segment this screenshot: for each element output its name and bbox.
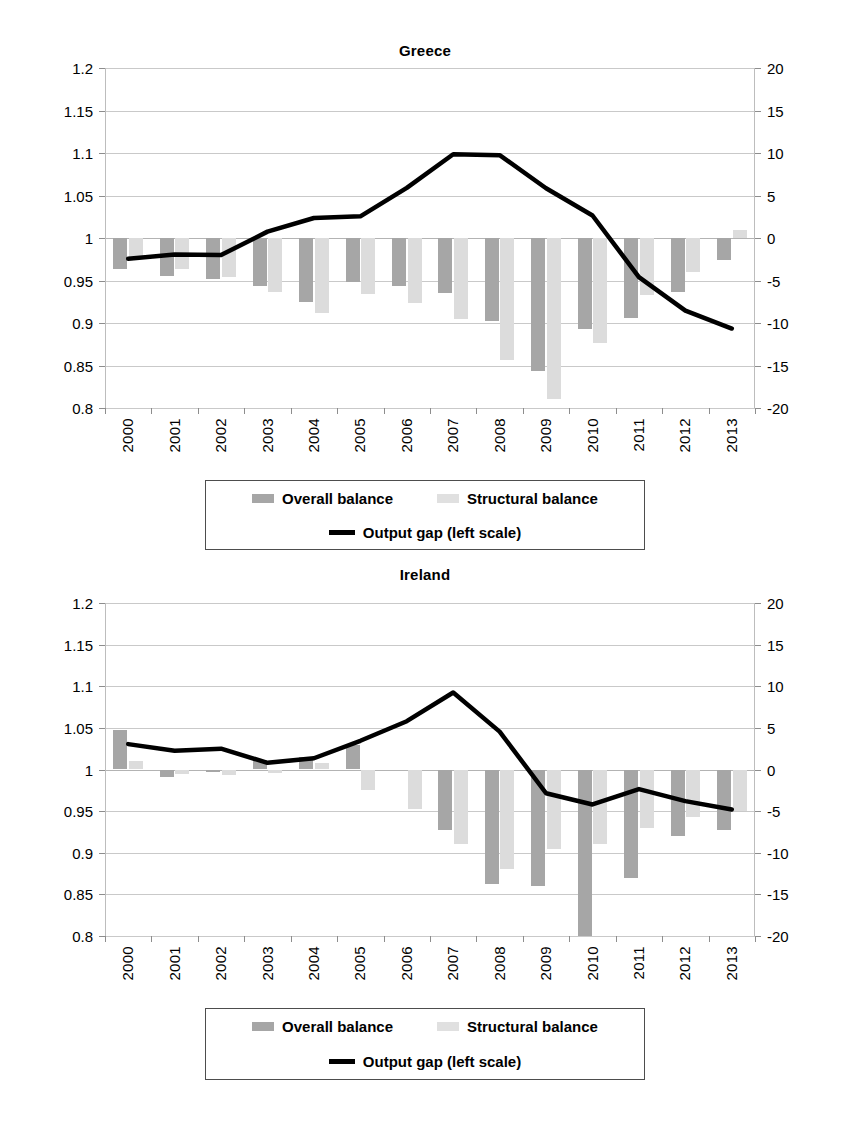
x-axis-label-2011: 2011 [630, 418, 647, 451]
axis-tickmark-right [755, 894, 761, 895]
x-axis-tickmark [291, 408, 292, 414]
x-axis-label-2005: 2005 [351, 418, 368, 453]
x-axis-tickmark [291, 936, 292, 942]
right-axis-tick-label: 0 [767, 231, 775, 246]
x-axis-tickmark [244, 936, 245, 942]
left-axis-tick-label: 1.1 [0, 679, 93, 694]
right-axis-tick-label: 20 [767, 61, 784, 76]
right-axis-tick-label: -5 [767, 804, 780, 819]
legend-row-bottom: Output gap (left scale) [206, 515, 644, 549]
x-axis-tickmark [337, 408, 338, 414]
axis-tickmark-right [755, 770, 761, 771]
right-axis-tick-label: -20 [767, 929, 789, 944]
left-axis-tick-label: 0.85 [0, 358, 93, 373]
plot-area-ireland [105, 603, 755, 936]
legend-label-output-gap: Output gap (left scale) [363, 1053, 521, 1070]
chart-title-ireland: Ireland [0, 566, 850, 583]
legend-label-structural: Structural balance [467, 1018, 598, 1035]
x-axis-tickmark [662, 408, 663, 414]
right-axis-tick-label: -15 [767, 358, 789, 373]
axis-tickmark-right [755, 603, 761, 604]
x-axis-tickmark [662, 936, 663, 942]
right-axis-tick-label: 15 [767, 103, 784, 118]
legend-swatch-structural-icon [437, 494, 459, 503]
x-axis-label-2012: 2012 [676, 418, 693, 453]
legend-label-structural: Structural balance [467, 490, 598, 507]
left-axis-tick-label: 1.15 [0, 103, 93, 118]
x-axis-tickmark [616, 936, 617, 942]
legend-label-output-gap: Output gap (left scale) [363, 524, 521, 541]
x-axis-tickmark [523, 408, 524, 414]
right-axis-tick-label: 5 [767, 188, 775, 203]
x-axis-label-2002: 2002 [212, 418, 229, 453]
left-axis-tick-label: 1.2 [0, 596, 93, 611]
axis-tickmark-right [755, 811, 761, 812]
x-axis-tickmark [430, 408, 431, 414]
x-axis-tickmark [709, 408, 710, 414]
left-axis-tick-label: 1.05 [0, 188, 93, 203]
x-axis-tickmark [755, 408, 756, 414]
x-axis-label-2000: 2000 [119, 418, 136, 453]
right-axis-tick-label: -10 [767, 845, 789, 860]
x-axis-tickmark [105, 936, 106, 942]
x-axis-tickmark [384, 936, 385, 942]
x-axis-tickmark [476, 936, 477, 942]
x-axis-label-2010: 2010 [584, 946, 601, 981]
x-axis-label-2005: 2005 [351, 946, 368, 981]
legend-swatch-structural-icon [437, 1022, 459, 1031]
x-axis-tickmark [151, 408, 152, 414]
x-axis-label-2011: 2011 [630, 946, 647, 979]
x-axis-tickmark [709, 936, 710, 942]
left-axis-tick-label: 0.85 [0, 887, 93, 902]
x-axis-tickmark [755, 936, 756, 942]
x-axis-label-2003: 2003 [259, 946, 276, 981]
left-axis-tick-label: 0.9 [0, 316, 93, 331]
right-axis-tick-label: -20 [767, 401, 789, 416]
legend-swatch-line-icon [329, 1059, 355, 1064]
x-axis-tickmark [337, 936, 338, 942]
legend-row-top: Overall balance Structural balance [206, 481, 644, 515]
legend-item-overall: Overall balance [252, 490, 393, 507]
legend-item-output-gap: Output gap (left scale) [329, 524, 521, 541]
left-axis-tick-label: 0.8 [0, 929, 93, 944]
x-axis-label-2001: 2001 [166, 418, 183, 453]
chart-panel-greece: Greece 0.80.850.90.9511.051.11.151.2 -20… [0, 0, 850, 566]
legend-swatch-overall-icon [252, 494, 274, 503]
left-axis-tick-label: 1.05 [0, 720, 93, 735]
x-axis-label-2000: 2000 [119, 946, 136, 981]
x-axis-label-2007: 2007 [444, 418, 461, 453]
x-axis-label-2008: 2008 [491, 946, 508, 981]
right-axis-tick-label: 0 [767, 762, 775, 777]
left-axis-tick-label: 0.95 [0, 273, 93, 288]
output-gap-line [105, 68, 755, 408]
axis-tickmark-right [755, 366, 761, 367]
axis-tickmark-right [755, 68, 761, 69]
x-axis-tickmark [384, 408, 385, 414]
x-axis-label-2012: 2012 [676, 946, 693, 981]
right-axis-tick-label: 10 [767, 679, 784, 694]
legend-item-overall: Overall balance [252, 1018, 393, 1035]
x-axis-tickmark [151, 936, 152, 942]
right-axis-tick-label: 20 [767, 596, 784, 611]
x-axis-tickmark [616, 408, 617, 414]
x-axis-label-2013: 2013 [723, 418, 740, 453]
legend-item-output-gap: Output gap (left scale) [329, 1053, 521, 1070]
legend-greece: Overall balance Structural balance Outpu… [205, 480, 645, 550]
axis-tickmark-right [755, 238, 761, 239]
x-axis-tickmark [430, 936, 431, 942]
x-axis-label-2006: 2006 [398, 418, 415, 453]
right-axis-tick-label: 15 [767, 637, 784, 652]
axis-tickmark-right [755, 153, 761, 154]
x-axis-label-2001: 2001 [166, 946, 183, 981]
legend-label-overall: Overall balance [282, 490, 393, 507]
x-axis-tickmark [244, 408, 245, 414]
right-axis-tick-label: -5 [767, 273, 780, 288]
legend-label-overall: Overall balance [282, 1018, 393, 1035]
legend-swatch-line-icon [329, 530, 355, 535]
left-axis-tick-label: 1 [0, 762, 93, 777]
x-axis-label-2008: 2008 [491, 418, 508, 453]
chart-title-greece: Greece [0, 42, 850, 59]
x-axis-tickmark [198, 408, 199, 414]
x-axis-label-2013: 2013 [723, 946, 740, 981]
x-axis-label-2003: 2003 [259, 418, 276, 453]
